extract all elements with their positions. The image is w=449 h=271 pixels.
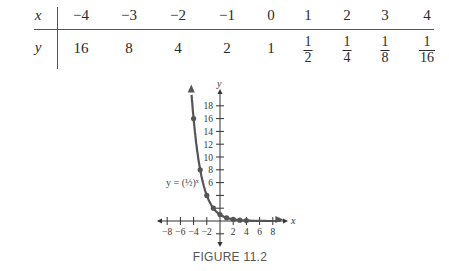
data-point <box>244 218 249 223</box>
curve-up-arrow-icon <box>188 84 195 92</box>
x-tick-label: 6 <box>257 227 262 237</box>
data-point <box>198 167 203 172</box>
exponential-graph: xy −8−6−4−22468181614121086 <box>0 0 449 271</box>
data-point <box>217 212 222 217</box>
y-tick-label: 10 <box>204 153 214 163</box>
y-axis-label: y <box>216 78 222 89</box>
y-tick-label: 12 <box>204 140 214 150</box>
x-tick-label: −2 <box>202 227 212 237</box>
data-point <box>231 217 236 222</box>
y-tick-label: 6 <box>208 178 213 188</box>
x-tick-label: −8 <box>162 227 172 237</box>
curve <box>188 84 284 223</box>
x-axis-left-arrow-icon <box>157 219 162 224</box>
y-axis-bottom-arrow-icon <box>218 242 223 247</box>
data-point <box>224 215 229 220</box>
data-point <box>211 206 216 211</box>
y-tick-label: 16 <box>204 114 214 124</box>
x-tick-label: −4 <box>189 227 199 237</box>
figure-caption: FIGURE 11.2 <box>193 250 267 264</box>
data-point <box>191 116 196 121</box>
curve-label: y = (½)ˣ <box>166 177 199 188</box>
x-axis-right-arrow-icon <box>283 219 288 224</box>
y-tick-label: 14 <box>204 127 214 137</box>
data-point <box>204 193 209 198</box>
x-tick-label: 8 <box>270 227 275 237</box>
x-tick-label: 2 <box>231 227 236 237</box>
x-tick-label: −6 <box>175 227 185 237</box>
y-axis-top-arrow-icon <box>218 89 223 94</box>
x-axis-label: x <box>290 215 296 226</box>
y-tick-label: 18 <box>204 101 214 111</box>
data-point <box>237 218 242 223</box>
y-tick-label: 8 <box>208 165 213 175</box>
x-tick-label: 4 <box>244 227 249 237</box>
